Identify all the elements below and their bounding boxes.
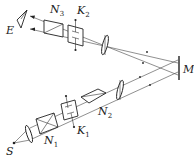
n2-subscript: 2 (108, 112, 112, 120)
ray-dot (142, 62, 144, 64)
source-point (13, 142, 16, 145)
svg-text:N1: N1 (43, 134, 58, 149)
ray-dot (149, 84, 151, 86)
n1-subscript: 1 (54, 141, 58, 149)
terminal-dot (74, 49, 76, 51)
terminal-dot (73, 126, 75, 128)
source-label: S (6, 145, 14, 156)
n1-label: N (43, 134, 54, 147)
ray-dot (146, 51, 148, 53)
terminal-dot (74, 19, 76, 21)
k1-subscript: 1 (85, 131, 89, 139)
n3-subscript: 3 (60, 10, 64, 18)
kerr-cell-k2: K2 (68, 4, 90, 51)
terminal-dot (65, 95, 67, 97)
arrow-head-icon (30, 28, 35, 32)
light-source: S (6, 142, 15, 156)
svg-text:N2: N2 (97, 105, 112, 120)
arrow-head-icon (30, 16, 35, 20)
k2-subscript: 2 (85, 11, 89, 19)
n2-label: N (97, 105, 108, 118)
eye-label: E (5, 24, 14, 37)
optics-diagram: E N3 K2 M N2 (0, 0, 194, 156)
eye: E (5, 10, 27, 37)
svg-text:N3: N3 (49, 3, 64, 18)
svg-text:K1: K1 (76, 124, 90, 139)
svg-text:K2: K2 (76, 4, 90, 19)
n3-label: N (49, 3, 60, 16)
lens-source (24, 125, 34, 144)
nicol-prism-n3: N3 (44, 3, 64, 37)
kerr-cell-k1: K1 (61, 95, 90, 139)
mirror-label: M (182, 63, 194, 76)
mirror: M (179, 56, 194, 80)
ray-dot (139, 76, 141, 78)
lens-upper (100, 35, 110, 56)
nicol-prism-n1: N1 (36, 113, 58, 149)
lower-beam (14, 60, 178, 143)
nicol-prism-n2: N2 (81, 89, 112, 120)
